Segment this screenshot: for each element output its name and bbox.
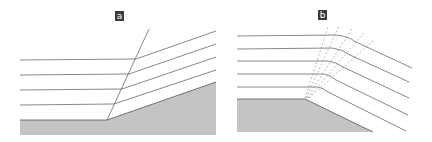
panel-b-layer-3 — [237, 61, 409, 98]
panel-a-ray-2 — [129, 44, 216, 74]
panel-b — [237, 26, 412, 132]
diagram-canvas — [0, 0, 432, 142]
panel-b-dashed-4 — [308, 33, 364, 98]
panel-a-layer-4 — [20, 104, 114, 105]
panel-b-label: b — [318, 10, 327, 20]
panel-a-fault-line — [107, 29, 149, 120]
panel-a-label: a — [115, 11, 124, 21]
panel-b-layer-1 — [237, 35, 412, 68]
panel-b-layer-2 — [237, 48, 409, 82]
panel-a — [20, 29, 216, 135]
panel-a-layer-1 — [20, 59, 136, 60]
panel-a-ray-1 — [136, 31, 216, 59]
panel-b-dashed-5 — [309, 40, 374, 98]
panel-a-layer-2 — [20, 74, 129, 75]
panel-a-ray-3 — [122, 57, 216, 89]
panel-a-layer-3 — [20, 89, 122, 90]
panel-b-dashed-3 — [307, 29, 352, 98]
